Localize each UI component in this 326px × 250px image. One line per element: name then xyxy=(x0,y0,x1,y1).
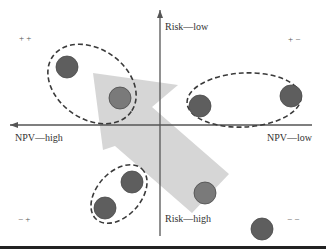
project-dot xyxy=(280,85,302,107)
quadrant-sign-top-left: + + xyxy=(19,33,31,43)
project-dot xyxy=(189,95,211,117)
project-dot xyxy=(109,87,131,109)
vertical-axis-arrowhead-icon xyxy=(157,10,163,18)
quadrant-sign-bottom-right: − − xyxy=(287,214,299,224)
bottom-rule xyxy=(0,246,326,249)
quadrant-sign-bottom-left: − + xyxy=(18,214,30,224)
risk-npv-diagram: Risk—low Risk—high NPV—high NPV—low + + … xyxy=(0,0,326,250)
x-axis-left-label: NPV—high xyxy=(15,132,63,143)
x-axis-right-label: NPV—low xyxy=(267,132,313,143)
y-axis-bottom-label: Risk—high xyxy=(165,213,211,224)
project-dot xyxy=(121,171,143,193)
quadrant-sign-top-right: + − xyxy=(288,34,300,44)
project-dot xyxy=(56,56,78,78)
horizontal-axis-arrowhead-icon xyxy=(10,122,18,128)
y-axis-top-label: Risk—low xyxy=(165,21,209,32)
project-dot xyxy=(194,182,216,204)
project-dot xyxy=(94,197,116,219)
project-dot xyxy=(251,218,273,240)
